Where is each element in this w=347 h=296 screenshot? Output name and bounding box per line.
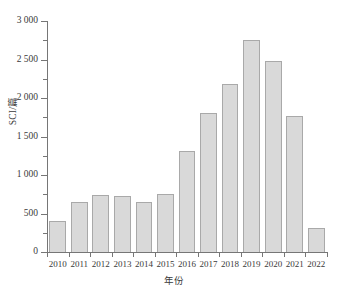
bar <box>92 195 109 252</box>
bar <box>114 196 131 252</box>
y-tick-label: 0 <box>0 246 38 256</box>
x-tick-mark <box>198 252 199 257</box>
y-tick-mark-minor <box>43 194 47 195</box>
bar <box>71 202 88 252</box>
bar <box>179 151 196 252</box>
x-tick-mark <box>69 252 70 257</box>
y-tick-mark-minor <box>43 79 47 80</box>
bar <box>49 221 66 252</box>
x-axis-title: 年份 <box>0 273 347 287</box>
y-tick-mark-minor <box>43 156 47 157</box>
x-tick-mark <box>262 252 263 257</box>
x-tick-mark <box>305 252 306 257</box>
y-tick-mark-minor <box>43 117 47 118</box>
y-tick-label: 2 500 <box>0 54 38 64</box>
bar <box>136 202 153 252</box>
y-tick-label: 1 500 <box>0 131 38 141</box>
y-tick-mark-minor <box>43 40 47 41</box>
bar <box>265 61 282 252</box>
x-tick-mark <box>327 252 328 257</box>
bar <box>286 116 303 252</box>
y-tick-mark <box>41 60 47 61</box>
x-tick-mark <box>47 252 48 257</box>
bar <box>243 40 260 252</box>
x-tick-mark <box>112 252 113 257</box>
y-tick-mark-minor <box>43 233 47 234</box>
y-tick-label: 3 000 <box>0 15 38 25</box>
y-tick-mark <box>41 137 47 138</box>
y-tick-mark <box>41 21 47 22</box>
x-tick-mark <box>155 252 156 257</box>
x-tick-mark <box>241 252 242 257</box>
x-tick-mark <box>90 252 91 257</box>
y-tick-label: 500 <box>0 208 38 218</box>
x-tick-mark <box>219 252 220 257</box>
x-axis-line <box>47 252 327 253</box>
bar <box>308 228 325 252</box>
bar <box>200 113 217 252</box>
x-tick-mark <box>133 252 134 257</box>
y-tick-mark <box>41 214 47 215</box>
y-tick-mark <box>41 98 47 99</box>
y-axis-line <box>47 21 48 253</box>
y-tick-mark <box>41 175 47 176</box>
x-tick-mark <box>176 252 177 257</box>
x-tick-mark <box>284 252 285 257</box>
y-tick-label: 2 000 <box>0 92 38 102</box>
bar <box>222 84 239 252</box>
bar <box>157 194 174 252</box>
y-tick-label: 1 000 <box>0 169 38 179</box>
bar-chart: SCI/篇 05001 0001 5002 0002 5003 000 2010… <box>0 0 347 296</box>
x-tick-label: 2022 <box>303 259 329 269</box>
